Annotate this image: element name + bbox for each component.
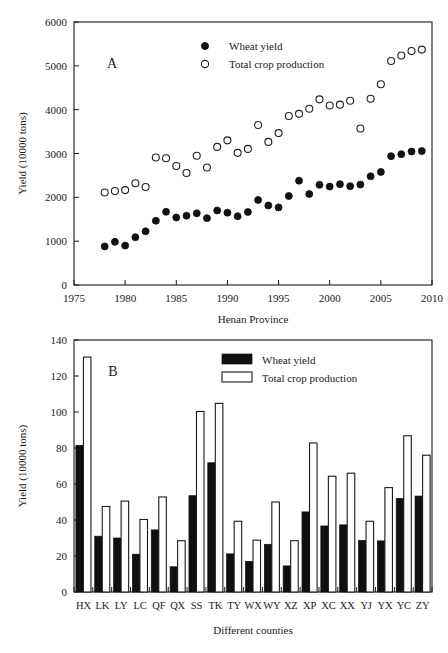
panel-b-legend-label-total-crop-production: Total crop production: [262, 372, 358, 384]
panel-b-legend-label-wheat-yield: Wheat yield: [262, 354, 316, 366]
panel-a-point-wheat-yield: [244, 209, 251, 216]
panel-a-y-tick-label: 3000: [45, 148, 68, 160]
panel-a-y-tick-label: 1000: [45, 235, 68, 247]
panel-a-plot-area: 0100020003000400050006000197519801985199…: [0, 0, 448, 326]
panel-b-bar-wheat-yield: [283, 566, 291, 592]
panel-b-bar-total-crop-production: [102, 507, 110, 593]
panel-b-category-label: HX: [76, 600, 91, 611]
panel-b-bar-total-crop-production: [234, 521, 242, 592]
panel-b-y-tick-label: 100: [51, 406, 68, 418]
panel-a-point-wheat-yield: [408, 148, 415, 155]
panel-b-category-label: XC: [321, 600, 335, 611]
panel-a-point-wheat-yield: [142, 228, 149, 235]
panel-a-point-total-crop-production: [367, 95, 374, 102]
panel-a-point-total-crop-production: [203, 164, 210, 171]
panel-a-point-total-crop-production: [142, 184, 149, 191]
panel-b-category-label: LY: [115, 600, 128, 611]
panel-a-point-total-crop-production: [326, 102, 333, 109]
panel-a-point-total-crop-production: [111, 187, 118, 194]
panel-a-point-total-crop-production: [306, 105, 313, 112]
panel-a-point-wheat-yield: [183, 212, 190, 219]
panel-a-y-axis-title: Yield (10000 tons): [16, 112, 29, 195]
panel-b-bar-wheat-yield: [302, 512, 310, 592]
panel-b-category-label: SS: [191, 600, 203, 611]
panel-b-bar-total-crop-production: [347, 473, 355, 592]
panel-a-point-total-crop-production: [398, 52, 405, 59]
panel-a-point-wheat-yield: [193, 210, 200, 217]
panel-b-bar-wheat-yield: [227, 554, 235, 592]
panel-b-bar-total-crop-production: [178, 541, 186, 592]
panel-a-point-wheat-yield: [255, 196, 262, 203]
panel-b-y-tick-label: 140: [51, 334, 68, 346]
panel-a-point-wheat-yield: [234, 213, 241, 220]
panel-b-plot-area: 020406080100120140HXLKLYLCQFQXSSTKTYWXWY…: [0, 326, 448, 653]
panel-a-point-total-crop-production: [244, 145, 251, 152]
panel-a-point-wheat-yield: [418, 148, 425, 155]
figure-container: 0100020003000400050006000197519801985199…: [0, 0, 448, 653]
panel-b-category-label: WY: [263, 600, 281, 611]
panel-b-svg: 020406080100120140HXLKLYLCQFQXSSTKTYWXWY…: [0, 326, 448, 653]
panel-a-point-wheat-yield: [163, 208, 170, 215]
panel-a-point-wheat-yield: [275, 204, 282, 211]
panel-a-point-wheat-yield: [152, 217, 159, 224]
panel-a-point-total-crop-production: [316, 96, 323, 103]
panel-a-point-total-crop-production: [285, 113, 292, 120]
panel-b-bar-total-crop-production: [291, 541, 299, 592]
panel-b-bar-chart: 020406080100120140HXLKLYLCQFQXSSTKTYWXWY…: [0, 326, 448, 653]
panel-a-point-total-crop-production: [255, 122, 262, 129]
panel-a-point-total-crop-production: [193, 152, 200, 159]
panel-b-bar-total-crop-production: [272, 502, 280, 592]
panel-b-category-label: TK: [209, 600, 223, 611]
panel-a-legend-label-total-crop-production: Total crop production: [229, 58, 325, 70]
panel-b-category-label: YX: [378, 600, 393, 611]
panel-b-category-label: QF: [152, 600, 165, 611]
panel-a-point-total-crop-production: [357, 125, 364, 132]
panel-a-point-wheat-yield: [398, 151, 405, 158]
panel-b-category-label: YJ: [360, 600, 371, 611]
panel-a-point-total-crop-production: [296, 110, 303, 117]
panel-b-bar-wheat-yield: [114, 538, 122, 592]
panel-b-bar-total-crop-production: [83, 357, 91, 592]
panel-a-point-total-crop-production: [418, 46, 425, 53]
panel-b-bar-total-crop-production: [310, 443, 318, 592]
panel-a-x-tick-label: 2010: [421, 292, 444, 304]
panel-b-category-label: XZ: [284, 600, 298, 611]
panel-b-bar-total-crop-production: [385, 488, 393, 592]
panel-b-bar-wheat-yield: [359, 540, 367, 592]
panel-a-point-wheat-yield: [377, 168, 384, 175]
panel-a-point-wheat-yield: [173, 214, 180, 221]
panel-a-point-wheat-yield: [214, 207, 221, 214]
legend-marker-total-crop-production-icon: [201, 60, 208, 67]
panel-a-y-tick-label: 4000: [45, 104, 68, 116]
panel-b-category-label: TY: [227, 600, 241, 611]
panel-a-point-total-crop-production: [275, 130, 282, 137]
panel-b-bar-wheat-yield: [321, 526, 329, 592]
panel-b-y-axis-title: Yield (10000 tons): [16, 424, 29, 507]
panel-a-legend-label-wheat-yield: Wheat yield: [229, 40, 283, 52]
panel-a-x-tick-label: 1980: [114, 292, 137, 304]
panel-a-point-wheat-yield: [122, 242, 129, 249]
panel-a-scatter-chart: 0100020003000400050006000197519801985199…: [0, 0, 448, 326]
panel-a-point-total-crop-production: [163, 155, 170, 162]
panel-a-point-total-crop-production: [336, 101, 343, 108]
panel-a-point-total-crop-production: [101, 189, 108, 196]
panel-a-point-wheat-yield: [336, 181, 343, 188]
panel-a-x-tick-label: 2005: [370, 292, 393, 304]
panel-a-point-wheat-yield: [265, 202, 272, 209]
panel-a-point-wheat-yield: [388, 153, 395, 160]
panel-a-point-wheat-yield: [101, 243, 108, 250]
panel-b-category-label: YC: [397, 600, 411, 611]
panel-a-point-total-crop-production: [214, 143, 221, 150]
panel-a-point-total-crop-production: [347, 97, 354, 104]
panel-b-bar-wheat-yield: [264, 544, 272, 592]
panel-b-category-label: LK: [95, 600, 109, 611]
panel-b-bar-wheat-yield: [415, 496, 423, 592]
panel-b-bar-wheat-yield: [95, 536, 103, 592]
panel-b-bar-total-crop-production: [215, 403, 223, 592]
panel-a-point-total-crop-production: [265, 138, 272, 145]
panel-b-category-label: WX: [244, 600, 262, 611]
panel-a-y-tick-label: 5000: [45, 60, 68, 72]
panel-a-x-tick-label: 2000: [319, 292, 342, 304]
panel-b-bar-total-crop-production: [328, 476, 336, 592]
panel-a-point-wheat-yield: [203, 215, 210, 222]
